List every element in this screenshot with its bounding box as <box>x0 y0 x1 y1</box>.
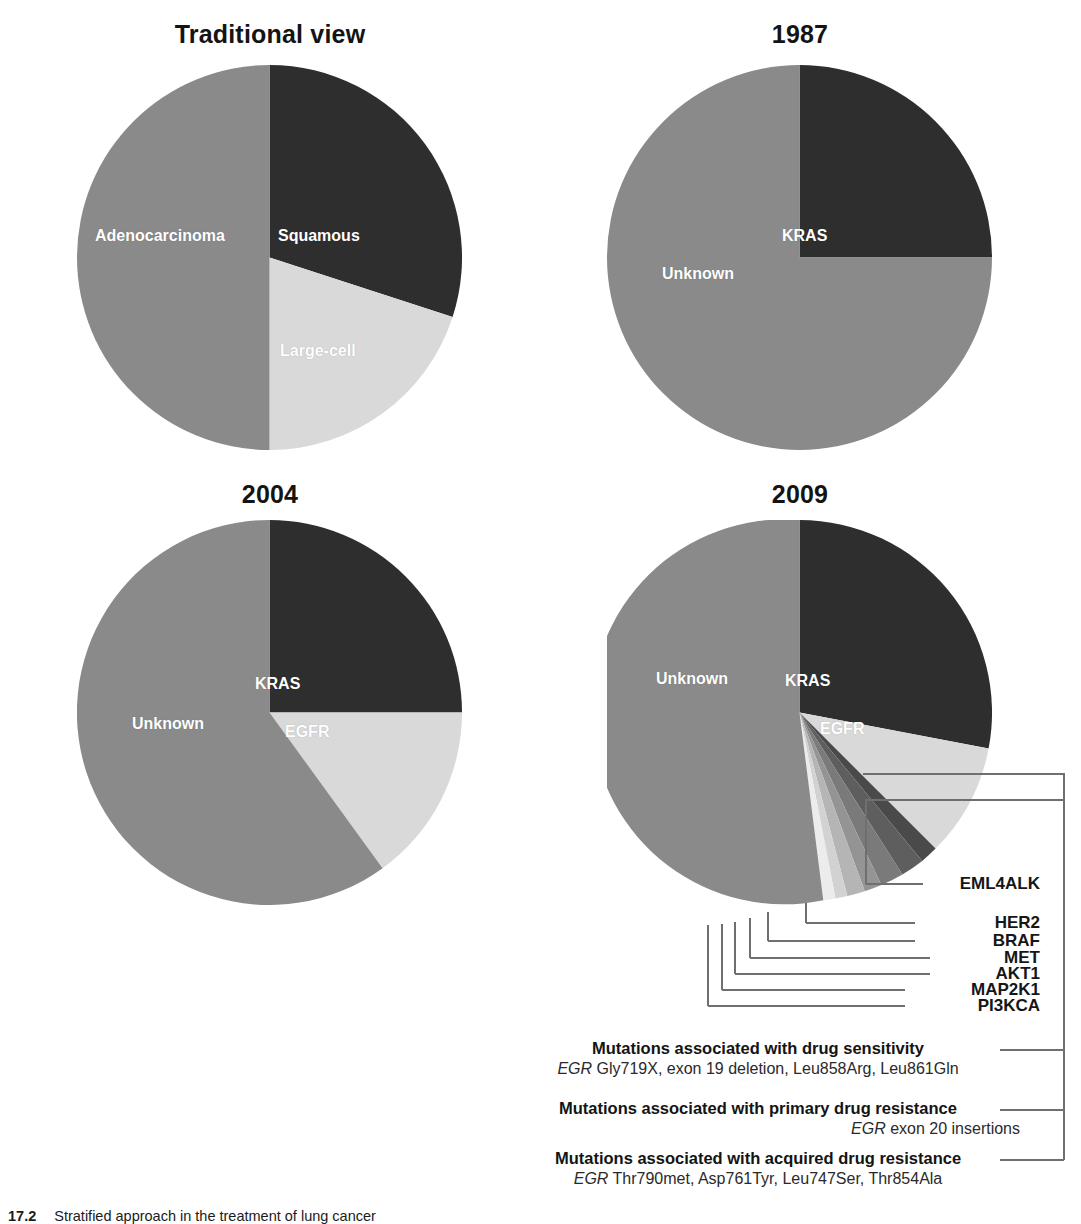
panel-2004: 2004 KRAS EGFR Unknown <box>40 480 500 930</box>
slice-label-kras-1987: KRAS <box>782 227 827 245</box>
slice-label-egfr-2009: EGFR <box>820 720 864 738</box>
slice-label-squamous: Squamous <box>278 227 360 245</box>
slice-label-unknown-2004: Unknown <box>132 715 204 733</box>
mutation-block-acquired: Mutations associated with acquired drug … <box>478 1148 1038 1189</box>
mutation-detail-text-sensitivity: Gly719X, exon 19 deletion, Leu858Arg, Le… <box>597 1060 959 1077</box>
mutation-heading-acquired: Mutations associated with acquired drug … <box>478 1148 1038 1169</box>
mutation-gene-sensitivity: EGR <box>557 1060 592 1077</box>
panel-title-1987: 1987 <box>570 20 1030 49</box>
pie-2004 <box>77 520 462 905</box>
pie-traditional-svg <box>77 65 462 450</box>
mutation-detail-text-primary: exon 20 insertions <box>890 1120 1020 1137</box>
panel-title-2009: 2009 <box>570 480 1030 509</box>
panel-2009: 2009 KRAS EGFR Unknown <box>570 480 1030 930</box>
slice-label-kras-2004: KRAS <box>255 675 300 693</box>
panel-1987: 1987 KRAS Unknown <box>570 20 1030 470</box>
mutation-heading-primary: Mutations associated with primary drug r… <box>478 1098 1038 1119</box>
pie-2009 <box>607 520 992 905</box>
mutation-gene-primary: EGR <box>851 1120 886 1137</box>
slice-label-kras-2009: KRAS <box>785 672 830 690</box>
panel-title-2004: 2004 <box>40 480 500 509</box>
mutation-heading-sensitivity: Mutations associated with drug sensitivi… <box>478 1038 1038 1059</box>
gene-label-pi3kca: PI3KCA <box>830 996 1040 1016</box>
pie-traditional <box>77 65 462 450</box>
slice-label-large-cell: Large-cell <box>280 342 356 360</box>
panel-title-traditional: Traditional view <box>40 20 500 49</box>
mutation-block-sensitivity: Mutations associated with drug sensitivi… <box>478 1038 1038 1079</box>
mutation-detail-sensitivity: EGR Gly719X, exon 19 deletion, Leu858Arg… <box>478 1059 1038 1080</box>
slice-unknown-2009 <box>607 520 823 904</box>
mutation-block-primary: Mutations associated with primary drug r… <box>478 1098 1038 1139</box>
mutation-detail-primary: EGR exon 20 insertions <box>478 1119 1038 1140</box>
figure-caption-text: Stratified approach in the treatment of … <box>54 1208 376 1224</box>
mutation-detail-text-acquired: Thr790met, Asp761Tyr, Leu747Ser, Thr854A… <box>613 1170 943 1187</box>
gene-label-her2: HER2 <box>830 913 1040 933</box>
slice-label-unknown-1987: Unknown <box>662 265 734 283</box>
gene-label-eml4alk: EML4ALK <box>830 874 1040 894</box>
panel-traditional: Traditional view Adenocarcinoma Squamous… <box>40 20 500 470</box>
slice-label-egfr-2004: EGFR <box>285 723 329 741</box>
pie-1987 <box>607 65 992 450</box>
figure-caption-number: 17.2 <box>8 1208 36 1224</box>
mutation-detail-acquired: EGR Thr790met, Asp761Tyr, Leu747Ser, Thr… <box>478 1169 1038 1190</box>
slice-label-unknown-2009: Unknown <box>656 670 728 688</box>
mutation-gene-acquired: EGR <box>574 1170 609 1187</box>
slice-label-adenocarcinoma: Adenocarcinoma <box>95 227 225 245</box>
pie-1987-svg <box>607 65 992 450</box>
slice-kras-2009 <box>800 520 993 749</box>
slice-kras-1987 <box>800 65 993 258</box>
slice-adenocarcinoma <box>77 65 270 450</box>
pie-2004-svg <box>77 520 462 905</box>
pie-2009-svg <box>607 520 992 905</box>
figure-caption: 17.2 Stratified approach in the treatmen… <box>8 1208 1081 1224</box>
